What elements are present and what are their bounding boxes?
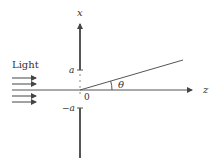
x-axis-label: x	[77, 7, 83, 18]
diffracted-ray	[80, 60, 183, 90]
angle-label: θ	[118, 79, 124, 90]
z-axis-label: z	[202, 84, 209, 95]
light-label: Light	[12, 59, 39, 70]
slit-diffraction-diagram: Light z x a 0 −a θ	[0, 0, 219, 167]
bottom-edge-label: −a	[62, 103, 75, 113]
angle-arc	[111, 81, 112, 90]
origin-label: 0	[84, 92, 90, 102]
top-edge-label: a	[69, 65, 74, 75]
